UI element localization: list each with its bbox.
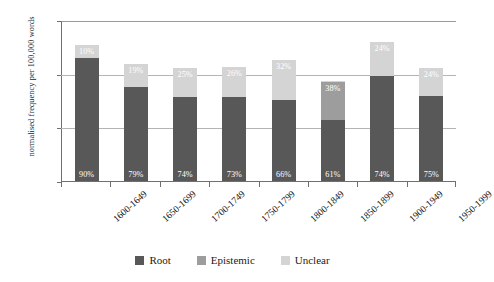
x-axis-tick-label: 1900-1949 [407,188,445,224]
stacked-bar[interactable]: 38%61% [321,81,345,181]
legend-item-root[interactable]: Root [135,254,170,266]
bar-segment-percent-label: 73% [227,171,242,179]
bar-segment-percent-label: 66% [276,171,291,179]
x-axis-tick-mark [259,182,260,187]
bar-segment-percent-label: 24% [375,45,390,53]
stacked-bar[interactable]: 24%75% [419,68,443,181]
bar-segment-percent-label: 32% [276,63,291,71]
bar-segment-percent-label: 19% [128,67,143,75]
bar-segment-root[interactable]: 90% [75,58,99,181]
bar-slot: 19%79% [111,21,160,181]
stacked-bar[interactable]: 10%90% [75,45,99,181]
stacked-bar[interactable]: 26%73% [222,67,246,181]
bar-group: 10%90%19%79%25%74%26%73%32%66%38%61%24%7… [62,21,456,181]
bar-segment-root[interactable]: 61% [321,120,345,181]
bar-segment-percent-label: 90% [79,171,94,179]
bar-segment-unclear[interactable]: 10% [75,45,99,59]
bar-segment-percent-label: 38% [325,85,340,93]
bar-segment-unclear[interactable]: 24% [370,42,394,76]
bar-segment-unclear[interactable]: 25% [173,68,197,96]
bar-segment-unclear[interactable]: 26% [222,67,246,97]
bar-segment-root[interactable]: 73% [222,97,246,181]
x-axis-tick-mark [61,182,62,187]
bar-slot: 38%61% [308,21,357,181]
stacked-bar[interactable]: 24%74% [370,42,394,181]
bar-segment-root[interactable]: 74% [370,76,394,181]
bar-slot: 24%75% [407,21,456,181]
bar-slot: 32%66% [259,21,308,181]
bar-segment-root[interactable]: 79% [124,87,148,181]
stacked-bar[interactable]: 25%74% [173,68,197,181]
bar-segment-percent-label: 24% [424,71,439,79]
legend-item-epistemic[interactable]: Epistemic [197,254,255,266]
bar-segment-percent-label: 79% [128,171,143,179]
bar-segment-unclear[interactable]: 19% [124,64,148,87]
x-axis-tick-mark [308,182,309,187]
legend-swatch-icon [135,256,144,265]
bar-segment-root[interactable]: 74% [173,97,197,181]
bar-segment-unclear[interactable]: 24% [419,68,443,95]
bar-segment-percent-label: 61% [325,171,340,179]
bar-segment-unclear[interactable]: 32% [272,60,296,99]
bar-segment-percent-label: 25% [178,71,193,79]
x-axis-tick-mark [357,182,358,187]
bar-segment-percent-label: 26% [227,70,242,78]
bar-segment-percent-label: 75% [424,171,439,179]
legend-item-unclear[interactable]: Unclear [281,254,330,266]
x-axis-tick-mark [407,182,408,187]
x-axis-tick-label: 1700-1749 [209,188,247,224]
x-axis-tick-mark [110,182,111,187]
bar-segment-percent-label: 74% [375,171,390,179]
bar-slot: 10%90% [62,21,111,181]
x-axis-tick-mark [160,182,161,187]
bar-segment-root[interactable]: 75% [419,96,443,181]
y-axis-tick-mark [57,21,61,22]
bar-segment-epistemic[interactable]: 38% [321,82,345,120]
plot-area: 050100150 10%90%19%79%25%74%26%73%32%66%… [61,21,456,182]
bar-slot: 24%74% [358,21,407,181]
bar-segment-percent-label: 10% [79,48,94,56]
x-axis-tick-mark [455,182,456,187]
x-axis-tick-label: 1800-1849 [308,188,346,224]
x-axis-tick-label: 1650-1699 [160,188,198,224]
legend-label: Unclear [295,254,330,266]
legend-swatch-icon [281,256,290,265]
y-axis-tick-mark [57,75,61,76]
x-axis-tick-label: 1950-1999 [456,188,494,224]
legend-swatch-icon [197,256,206,265]
stacked-bar[interactable]: 32%66% [272,60,296,181]
legend-label: Root [149,254,170,266]
legend-label: Epistemic [211,254,255,266]
x-axis-tick-label: 1600-1649 [110,188,148,224]
x-axis-tick-labels: 1600-16491650-16991700-17491750-17991800… [61,188,456,244]
chart-legend: RootEpistemicUnclear [0,254,465,266]
y-axis-title: normalised frequency per 100,000 words [27,0,36,174]
stacked-bar[interactable]: 19%79% [124,64,148,181]
bar-slot: 25%74% [161,21,210,181]
bar-segment-percent-label: 74% [178,171,193,179]
x-axis-tick-label: 1750-1799 [258,188,296,224]
x-axis-tick-mark [209,182,210,187]
x-axis-tick-label: 1850-1899 [357,188,395,224]
y-axis-tick-mark [57,128,61,129]
bar-segment-root[interactable]: 66% [272,100,296,181]
bar-slot: 26%73% [210,21,259,181]
